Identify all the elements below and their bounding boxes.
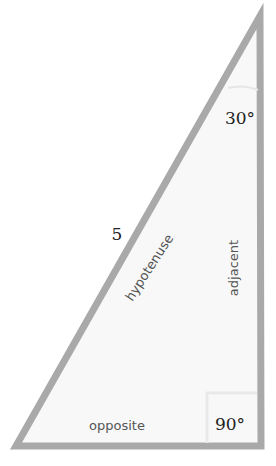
hypotenuse-length-label: 5: [112, 224, 123, 244]
triangle-shape: [16, 16, 261, 446]
adjacent-label: adjacent: [226, 240, 241, 296]
angle-label-30: 30°: [225, 108, 255, 128]
right-triangle-diagram: 30° 90° 5 hypotenuse adjacent opposite: [0, 0, 276, 466]
opposite-label: opposite: [89, 418, 145, 433]
angle-label-90: 90°: [215, 414, 245, 434]
